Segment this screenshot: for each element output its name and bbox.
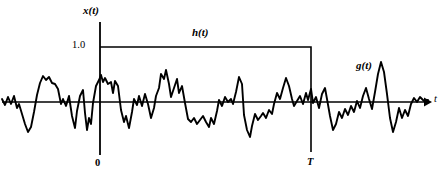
y-axis-label: x(t) bbox=[83, 5, 99, 16]
noise-signal-label: g(t) bbox=[356, 60, 372, 71]
noise-waveform-g bbox=[2, 62, 428, 137]
pulse-end-label: T bbox=[307, 157, 313, 168]
pulse-signal-label: h(t) bbox=[192, 27, 209, 38]
amplitude-tick-label: 1.0 bbox=[72, 40, 85, 51]
signal-waveform-figure: x(t) 1.0 h(t) g(t) 0 T t bbox=[0, 0, 445, 176]
origin-label: 0 bbox=[95, 158, 100, 169]
x-axis-arrow-icon bbox=[424, 98, 432, 107]
waveform-plot bbox=[0, 0, 445, 176]
x-axis-label: t bbox=[434, 94, 437, 105]
